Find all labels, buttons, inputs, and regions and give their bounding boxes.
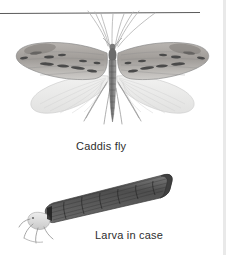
caption-larva-in-case: Larva in case [95,229,163,241]
caption-caddis-fly: Caddis fly [76,140,126,152]
larva-eye [32,217,34,219]
larva-head [28,212,50,229]
case-front-rim [47,206,52,221]
illustration-plate [0,0,226,255]
right-edge-strip [223,0,226,255]
